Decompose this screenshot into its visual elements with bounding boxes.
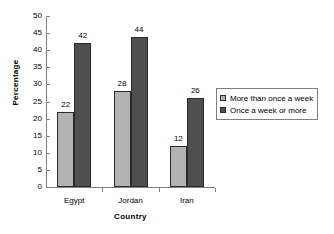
chart-legend: More than once a week Once a week or mor… xyxy=(216,88,318,120)
bar[interactable] xyxy=(57,112,74,187)
y-axis-tick-label: 15 xyxy=(22,132,42,140)
bar[interactable] xyxy=(74,43,91,187)
bar-value-label: 26 xyxy=(183,87,207,95)
bar-value-label: 28 xyxy=(110,80,134,88)
bar[interactable] xyxy=(170,146,187,187)
y-axis-tick-label: 30 xyxy=(22,80,42,88)
x-axis-tick xyxy=(102,188,103,192)
legend-item[interactable]: More than once a week xyxy=(220,92,313,104)
x-axis-category-label: Iran xyxy=(157,196,217,205)
y-axis-tick-label: 20 xyxy=(22,115,42,123)
x-axis-line xyxy=(46,187,215,188)
y-axis-tick-label: 40 xyxy=(22,46,42,54)
y-axis-tick-label: 10 xyxy=(22,149,42,157)
y-axis-tick-label: 50 xyxy=(22,12,42,20)
x-axis-tick xyxy=(215,188,216,192)
legend-swatch-icon xyxy=(220,107,226,113)
y-axis-tick-label: 0 xyxy=(22,183,42,191)
y-axis-tick-label: 35 xyxy=(22,63,42,71)
legend-item[interactable]: Once a week or more xyxy=(220,104,313,116)
legend-item-label: Once a week or more xyxy=(230,106,306,115)
bar[interactable] xyxy=(131,37,148,187)
x-axis-tick xyxy=(159,188,160,192)
bar-value-label: 44 xyxy=(127,26,151,34)
bar-value-label: 42 xyxy=(71,32,95,40)
y-axis-tick-label: 25 xyxy=(22,98,42,106)
legend-item-label: More than once a week xyxy=(230,94,313,103)
y-axis-tick-label: 5 xyxy=(22,166,42,174)
x-axis-category-label: Jordan xyxy=(101,196,161,205)
bar[interactable] xyxy=(114,91,131,187)
legend-swatch-icon xyxy=(220,95,226,101)
y-axis-title: Percentage xyxy=(11,43,20,123)
x-axis-title: Country xyxy=(46,212,215,221)
bar-value-label: 22 xyxy=(54,101,78,109)
x-axis-category-label: Egypt xyxy=(44,196,104,205)
y-axis-tick-label: 45 xyxy=(22,29,42,37)
bar-chart: Percentage 05101520253035404550 22422844… xyxy=(0,0,334,234)
bar-value-label: 12 xyxy=(166,135,190,143)
